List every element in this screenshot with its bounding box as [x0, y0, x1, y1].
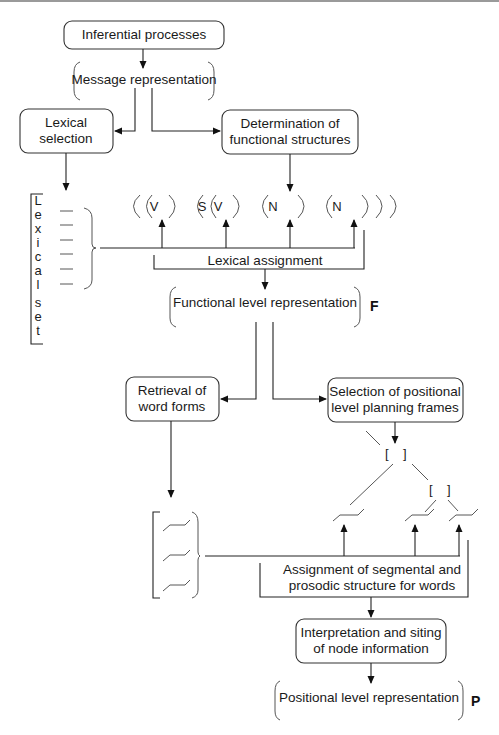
node-label: selection: [39, 131, 92, 146]
word-frame-slot: [333, 509, 364, 521]
node-selection-planning-frames: Selection of positional level planning f…: [328, 378, 463, 422]
segmental-assignment-connector: Assignment of segmental and prosodic str…: [205, 525, 468, 597]
node-label: Determination of: [240, 116, 339, 131]
letter: c: [35, 249, 42, 264]
node-label: Lexical: [45, 115, 87, 130]
lexical-assignment-label: Lexical assignment: [208, 253, 323, 268]
node-label: Selection of positional: [329, 384, 460, 399]
slot-label: N: [332, 199, 341, 214]
bracket: [153, 512, 160, 598]
node-positional-level-representation: Positional level representation P: [275, 681, 480, 720]
node-label: functional structures: [230, 132, 351, 147]
level-label-p: P: [471, 693, 480, 709]
letter: t: [36, 323, 40, 338]
slot-label: S: [198, 199, 207, 214]
letter: s: [35, 295, 42, 310]
word-forms-set: [153, 512, 200, 598]
node-message-representation: Message representation: [72, 62, 217, 100]
bracket-close: ]: [403, 446, 407, 461]
node-inferential-processes: Inferential processes: [64, 21, 224, 49]
node-functional-level-representation: Functional level representation F: [170, 287, 379, 327]
level-label-f: F: [370, 298, 379, 314]
node-label: Functional level representation: [173, 295, 357, 310]
segmental-label: prosodic structure for words: [289, 578, 456, 593]
slot-label: V: [150, 199, 159, 214]
node-label: Message representation: [72, 72, 217, 87]
letter: i: [37, 235, 40, 250]
letter: x: [35, 221, 42, 236]
word-frame-slot: [449, 509, 478, 521]
node-label: Interpretation and siting: [300, 625, 441, 640]
letter: a: [34, 263, 42, 278]
lexical-item-slots: [60, 211, 73, 284]
arrow: [221, 322, 256, 399]
lexical-set: L e x i c a l s e t: [31, 193, 96, 344]
bracket-open: [: [429, 482, 433, 497]
speech-production-diagram: Inferential processes Message representa…: [0, 0, 499, 735]
node-label: Inferential processes: [82, 27, 207, 42]
letter: e: [34, 207, 41, 222]
brace: [84, 208, 96, 289]
arrow: [273, 322, 326, 399]
node-label: Retrieval of: [138, 383, 207, 398]
segmental-label: Assignment of segmental and: [283, 562, 461, 577]
node-label: of node information: [313, 641, 429, 656]
word-frame-slot: [405, 509, 434, 521]
node-lexical-selection: Lexical selection: [20, 109, 113, 153]
letter: L: [34, 193, 41, 208]
letter: e: [34, 309, 41, 324]
letter: l: [37, 277, 40, 292]
node-retrieval-word-forms: Retrieval of word forms: [126, 377, 219, 421]
lexical-assignment-connector: Lexical assignment: [100, 220, 364, 269]
planning-frame-tree: [ ] [ ]: [333, 431, 478, 521]
node-label: word forms: [138, 399, 206, 414]
arrow: [115, 88, 135, 131]
arrow: [152, 88, 220, 131]
brace: [192, 512, 200, 598]
node-label: Positional level representation: [279, 690, 459, 705]
bracket-open: [: [385, 446, 389, 461]
node-interpretation-siting: Interpretation and siting of node inform…: [296, 619, 446, 663]
functional-structure-frames: V S V N N: [134, 195, 397, 218]
bracket-close: ]: [447, 482, 451, 497]
node-determination-functional-structures: Determination of functional structures: [222, 110, 358, 154]
slot-label: V: [214, 199, 223, 214]
node-label: level planning frames: [331, 400, 459, 415]
slot-label: N: [268, 199, 277, 214]
